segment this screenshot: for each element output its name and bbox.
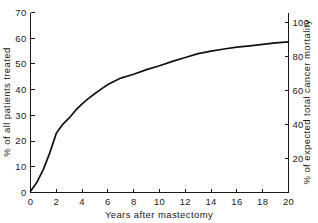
x-tick-label: 2 <box>54 196 60 207</box>
left-tick-label: 40 <box>15 84 26 95</box>
left-tick-label: 60 <box>15 33 26 44</box>
left-tick-label: 50 <box>15 58 26 69</box>
chart-figure: 010203040506070 20406080100 024681012141… <box>0 0 318 223</box>
x-tick-label: 6 <box>105 196 111 207</box>
mortality-line-chart: 010203040506070 20406080100 024681012141… <box>0 0 318 223</box>
x-tick-label: 18 <box>257 196 268 207</box>
x-tick-label: 12 <box>180 196 191 207</box>
x-tick-label: 8 <box>131 196 137 207</box>
x-axis-title: Years after mastectomy <box>105 209 213 220</box>
x-axis-ticks <box>56 189 262 193</box>
left-axis-ticks <box>31 13 35 193</box>
left-tick-label: 0 <box>21 187 27 198</box>
data-curve <box>31 42 289 191</box>
y2-axis-title: % of expected total cancer mortality <box>301 20 312 185</box>
x-tick-label: 20 <box>283 196 294 207</box>
x-tick-label: 10 <box>154 196 165 207</box>
left-tick-label: 10 <box>15 161 26 172</box>
left-tick-label: 30 <box>15 110 26 121</box>
right-axis-ticks <box>285 23 289 159</box>
x-tick-label: 14 <box>206 196 217 207</box>
left-tick-label: 20 <box>15 135 26 146</box>
x-axis-tick-labels: 02468101214161820 <box>28 196 294 207</box>
y-axis-title: % of all patients treated <box>1 47 12 156</box>
left-axis-tick-labels: 010203040506070 <box>15 7 26 198</box>
left-tick-label: 70 <box>15 7 26 18</box>
x-tick-label: 4 <box>79 196 85 207</box>
x-tick-label: 16 <box>231 196 242 207</box>
x-tick-label: 0 <box>28 196 34 207</box>
